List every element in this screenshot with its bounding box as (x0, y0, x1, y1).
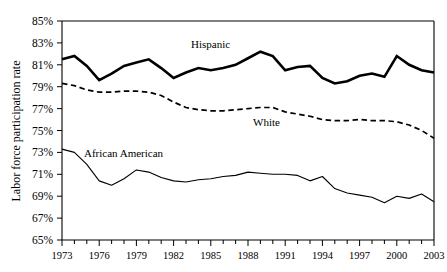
y-tick-label: 81% (32, 59, 54, 71)
y-tick-label: 67% (32, 212, 54, 224)
y-tick-label: 83% (32, 37, 54, 49)
x-tick-label: 1973 (52, 250, 73, 261)
series-label-african-american: African American (84, 147, 164, 159)
x-tick-label-group: 1973197619791982198519881991199419972000… (52, 250, 445, 261)
series-line-hispanic (62, 52, 434, 84)
series-label-white: White (253, 116, 280, 128)
y-tick-label-group: 85%83%81%79%77%75%73%71%69%67%65% (32, 15, 54, 246)
y-tick-label: 77% (32, 103, 54, 115)
x-tick-label: 1997 (349, 250, 370, 261)
series-line-white (62, 83, 434, 138)
y-tick-group (57, 21, 62, 240)
x-tick-label: 2003 (424, 250, 445, 261)
y-tick-label: 85% (32, 15, 54, 27)
labor-force-participation-chart: 85%83%81%79%77%75%73%71%69%67%65% 197319… (0, 0, 447, 272)
series-label-hispanic: Hispanic (191, 38, 230, 50)
y-tick-label: 65% (32, 234, 54, 246)
axes-group (62, 21, 434, 240)
y-axis-title: Labor force participation rate (9, 61, 23, 202)
x-tick-group (62, 240, 434, 246)
x-tick-label: 1979 (126, 250, 147, 261)
y-tick-label: 75% (32, 125, 54, 137)
x-tick-label: 1988 (238, 250, 259, 261)
x-tick-label: 1991 (275, 250, 296, 261)
x-tick-label: 1976 (89, 250, 110, 261)
x-tick-label: 1994 (312, 250, 334, 261)
x-tick-label: 1982 (163, 250, 184, 261)
y-tick-label: 73% (32, 146, 54, 158)
chart-plot-area: 85%83%81%79%77%75%73%71%69%67%65% 197319… (0, 0, 447, 272)
y-tick-label: 71% (32, 168, 54, 180)
x-tick-label: 1985 (200, 250, 221, 261)
y-tick-label: 79% (32, 81, 54, 93)
y-tick-label: 69% (32, 190, 54, 202)
x-tick-label: 2000 (386, 250, 407, 261)
